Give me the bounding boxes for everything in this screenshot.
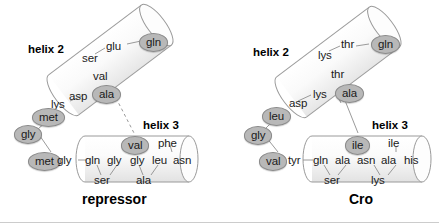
residue-repressor-h2-glu: glu	[106, 41, 121, 53]
repressor-title: repressor	[82, 192, 147, 206]
residue-repressor-loop-gly-2: gly	[57, 155, 71, 167]
residue-cro-h2-gln: gln	[371, 35, 400, 54]
residue-cro-loop-leu: leu	[262, 107, 291, 126]
repressor-helix3-label: helix 3	[143, 120, 179, 132]
residue-cro-h3-ser: ser	[324, 175, 340, 187]
residue-cro-h2-thr-2: thr	[331, 69, 344, 81]
residue-cro-h2-asp: asp	[289, 98, 307, 110]
repressor-panel: helix 2 helix 3 gln glu ser val ala asp …	[0, 0, 219, 223]
residue-cro-h3-ile-2: ile	[388, 138, 399, 150]
residue-cro-h3-gln: gln	[313, 155, 328, 167]
residue-repressor-h3-asn: asn	[173, 155, 191, 167]
cro-title: Cro	[349, 192, 373, 206]
residue-cro-h2-thr-1: thr	[341, 39, 354, 51]
residue-cro-h2-lys-1: lys	[318, 50, 332, 62]
residue-repressor-h3-gln: gln	[85, 155, 100, 167]
residue-cro-h3-ala-2: ala	[381, 155, 396, 167]
residue-repressor-h3-phe: phe	[158, 138, 177, 150]
residue-repressor-h3-ser: ser	[94, 175, 110, 187]
residue-cro-h3-lys: lys	[371, 175, 385, 187]
cro-panel: helix 2 helix 3 gln thr lys thr ala lys …	[220, 0, 439, 223]
cro-helix2-label: helix 2	[253, 47, 289, 59]
residue-cro-h3-ala-1: ala	[335, 155, 350, 167]
residue-repressor-h2-asp: asp	[69, 91, 87, 103]
residue-repressor-h3-ala: ala	[136, 175, 151, 187]
residue-cro-h3-ile-1: ile	[345, 136, 370, 155]
residue-cro-h2-lys-2: lys	[313, 89, 327, 101]
residue-cro-loop-tyr: tyr	[288, 155, 300, 167]
residue-repressor-loop-met-2: met	[28, 152, 61, 171]
repressor-helix2-label: helix 2	[28, 44, 64, 56]
residue-repressor-h2-ser: ser	[82, 53, 98, 65]
residue-repressor-h3-gly-1: gly	[107, 155, 121, 167]
residue-repressor-h2-ala: ala	[92, 85, 121, 104]
residue-cro-loop-val: val	[259, 152, 287, 171]
residue-repressor-h3-leu: leu	[152, 155, 167, 167]
residue-cro-loop-gly: gly	[244, 126, 272, 145]
residue-repressor-h2-val: val	[93, 71, 107, 83]
residue-repressor-h3-val: val	[121, 136, 149, 155]
residue-cro-h3-asn: asn	[357, 155, 375, 167]
residue-cro-h3-his: his	[404, 155, 418, 167]
residue-cro-h2-ala: ala	[335, 84, 364, 103]
cro-helix3-label: helix 3	[372, 120, 408, 132]
protein-comparison-figure: helix 2 helix 3 gln glu ser val ala asp …	[0, 0, 439, 223]
residue-repressor-h2-gln: gln	[139, 33, 168, 52]
residue-repressor-loop-gly: gly	[14, 125, 42, 144]
residue-repressor-h3-gly-2: gly	[130, 155, 144, 167]
residue-repressor-loop-met-1: met	[32, 108, 65, 127]
